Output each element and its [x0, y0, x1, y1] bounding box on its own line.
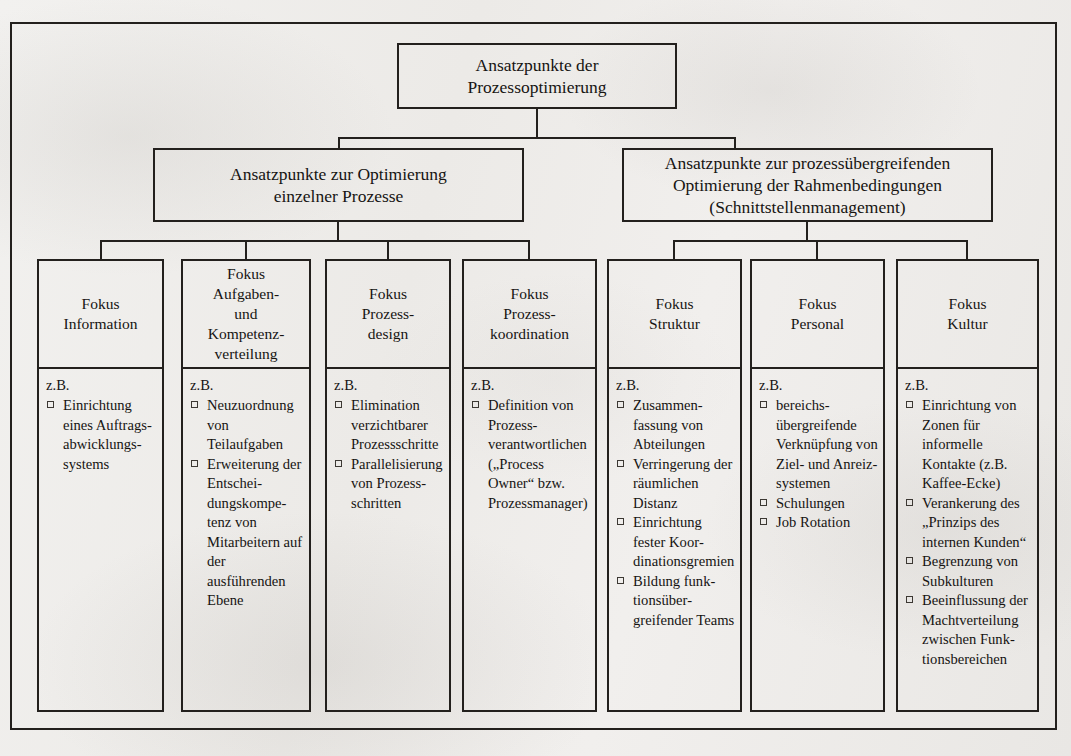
checkbox-square-icon	[906, 557, 913, 564]
focus-item-list: bereichs­übergreifen­de Verknüp­fung von…	[759, 396, 878, 532]
connector-to-col-1	[100, 240, 102, 260]
focus-item-list: Neuzuord­nung von TeilaufgabenErweiterun…	[190, 396, 304, 610]
focus-column-heading: Fokus Prozess- koordination	[464, 261, 595, 369]
focus-item: Einrichtung von Zonen für informelle Kon…	[905, 396, 1032, 493]
focus-item-label: Neuzuord­nung von Teilaufgaben	[207, 397, 294, 452]
focus-item: Beeinflussung der Machtver­teilung zwi­s…	[905, 591, 1032, 669]
focus-column-body: z.B. Neuzuord­nung von TeilaufgabenErwei…	[183, 369, 309, 710]
focus-column-heading: Fokus Kultur	[898, 261, 1037, 369]
focus-item: Neuzuord­nung von Teilaufgaben	[190, 396, 304, 454]
connector-to-col-6	[816, 240, 818, 260]
connector-left-bus	[100, 240, 530, 242]
focus-item-label: Einrichtung fester Koor­dinations­gremie…	[633, 514, 734, 569]
focus-item: Verringerung der räumli­chen Distanz	[616, 455, 735, 513]
focus-column-body: z.B. bereichs­übergreifen­de Verknüp­fun…	[752, 369, 883, 710]
checkbox-square-icon	[906, 499, 913, 506]
focus-item: Zusammen­fassung von Abteilungen	[616, 396, 735, 454]
focus-column-prozesskoordination: Fokus Prozess- koordination z.B. Definit…	[462, 259, 597, 712]
focus-column-body: z.B. Elimination verzichtbarer Prozess­s…	[327, 369, 449, 710]
focus-item-list: Definition von Prozess­verantwort­lichen…	[471, 396, 590, 513]
node-branch-rahmenbedingungen: Ansatzpunkte zur prozessübergreifenden O…	[622, 148, 993, 222]
connector-to-col-4	[528, 240, 530, 260]
example-label: z.B.	[190, 376, 304, 395]
focus-item-list: Einrichtung eines Auftrags­abwicklungs­s…	[46, 396, 157, 474]
focus-item-label: Schulungen	[776, 495, 845, 511]
focus-item-label: bereichs­übergreifen­de Verknüp­fung von…	[776, 397, 878, 491]
node-branch-einzelne-prozesse: Ansatzpunkte zur Optimierung einzelner P…	[153, 148, 524, 222]
checkbox-square-icon	[191, 401, 198, 408]
example-label: z.B.	[905, 376, 1032, 395]
focus-item-label: Zusammen­fassung von Abteilungen	[633, 397, 705, 452]
focus-column-information: Fokus Information z.B. Einrichtung eines…	[37, 259, 164, 712]
focus-column-body: z.B. Einrichtung eines Auftrags­abwicklu…	[39, 369, 162, 710]
example-label: z.B.	[616, 376, 735, 395]
checkbox-square-icon	[335, 460, 342, 467]
connector-level1-bus	[338, 137, 736, 139]
checkbox-square-icon	[617, 460, 624, 467]
focus-item-label: Einrichtung eines Auftrags­abwicklungs­s…	[63, 397, 152, 471]
process-optimization-diagram: Ansatzpunkte der Prozessoptimierung Ansa…	[0, 0, 1071, 756]
focus-item: Bildung funk­tionsüber­greifender Teams	[616, 572, 735, 630]
checkbox-square-icon	[335, 401, 342, 408]
checkbox-square-icon	[617, 401, 624, 408]
checkbox-square-icon	[760, 518, 767, 525]
checkbox-square-icon	[47, 401, 54, 408]
focus-item-label: Erweiterung der Entschei­dungskompe­tenz…	[207, 456, 302, 608]
connector-to-col-2	[245, 240, 247, 260]
connector-to-col-3	[387, 240, 389, 260]
checkbox-square-icon	[760, 499, 767, 506]
focus-column-heading: Fokus Aufgaben- und Kompetenz- verteilun…	[183, 261, 309, 369]
focus-column-aufgaben-kompetenzverteilung: Fokus Aufgaben- und Kompetenz- verteilun…	[181, 259, 311, 712]
focus-column-body: z.B. Definition von Prozess­verantwort­l…	[464, 369, 595, 710]
focus-column-body: z.B. Zusammen­fassung von AbteilungenVer…	[609, 369, 740, 710]
focus-item: Erweiterung der Entschei­dungskompe­tenz…	[190, 455, 304, 611]
checkbox-square-icon	[472, 401, 479, 408]
node-branch-right-label: Ansatzpunkte zur prozessübergreifenden O…	[665, 152, 950, 218]
focus-column-heading: Fokus Prozess- design	[327, 261, 449, 369]
focus-item: Einrichtung fester Koor­dinations­gremie…	[616, 513, 735, 571]
focus-item-list: Zusammen­fassung von AbteilungenVerringe…	[616, 396, 735, 630]
focus-column-body: z.B. Einrichtung von Zonen für informell…	[898, 369, 1037, 710]
connector-branch-right-stem	[806, 222, 808, 242]
connector-root-stem	[536, 109, 538, 139]
focus-item-label: Definition von Prozess­verantwort­lichen…	[488, 397, 588, 510]
focus-item-label: Verringerung der räumli­chen Distanz	[633, 456, 732, 511]
focus-column-prozessdesign: Fokus Prozess- design z.B. Elimination v…	[325, 259, 451, 712]
connector-branch-left-stem	[337, 222, 339, 242]
example-label: z.B.	[759, 376, 878, 395]
checkbox-square-icon	[617, 518, 624, 525]
focus-column-heading: Fokus Information	[39, 261, 162, 369]
checkbox-square-icon	[906, 401, 913, 408]
connector-right-bus	[673, 240, 968, 242]
node-branch-left-label: Ansatzpunkte zur Optimierung einzelner P…	[230, 163, 447, 207]
example-label: z.B.	[334, 376, 444, 395]
checkbox-square-icon	[617, 577, 624, 584]
focus-item: Job Rotation	[759, 513, 878, 532]
focus-item: Begrenzung von Subkul­turen	[905, 552, 1032, 591]
checkbox-square-icon	[906, 596, 913, 603]
focus-column-personal: Fokus Personal z.B. bereichs­übergreifen…	[750, 259, 885, 712]
focus-column-heading: Fokus Struktur	[609, 261, 740, 369]
focus-item-label: Paralleli­sierung von Prozess­schritten	[351, 456, 443, 511]
node-root-label: Ansatzpunkte der Prozessoptimierung	[467, 54, 606, 98]
focus-item-label: Job Rotation	[776, 514, 850, 530]
example-label: z.B.	[471, 376, 590, 395]
focus-item: Verankerung des „Prinzips des internen K…	[905, 494, 1032, 552]
focus-item-label: Elimination verzichtbarer Prozess­schrit…	[351, 397, 439, 452]
checkbox-square-icon	[191, 460, 198, 467]
focus-item-label: Verankerung des „Prinzips des internen K…	[922, 495, 1026, 550]
connector-to-col-7	[966, 240, 968, 260]
focus-column-struktur: Fokus Struktur z.B. Zusammen­fassung von…	[607, 259, 742, 712]
checkbox-square-icon	[760, 401, 767, 408]
focus-item-label: Beeinflussung der Machtver­teilung zwi­s…	[922, 592, 1028, 666]
focus-column-heading: Fokus Personal	[752, 261, 883, 369]
focus-item: Elimination verzichtbarer Prozess­schrit…	[334, 396, 444, 454]
focus-column-kultur: Fokus Kultur z.B. Einrichtung von Zonen …	[896, 259, 1039, 712]
focus-item-list: Einrichtung von Zonen für informelle Kon…	[905, 396, 1032, 669]
example-label: z.B.	[46, 376, 157, 395]
focus-item: Einrichtung eines Auftrags­abwicklungs­s…	[46, 396, 157, 474]
focus-item-label: Begrenzung von Subkul­turen	[922, 553, 1018, 588]
focus-item-label: Einrichtung von Zonen für informelle Kon…	[922, 397, 1016, 491]
node-root-ansatzpunkte-prozessoptimierung: Ansatzpunkte der Prozessoptimierung	[397, 43, 677, 109]
focus-item-label: Bildung funk­tionsüber­greifender Teams	[633, 573, 734, 628]
